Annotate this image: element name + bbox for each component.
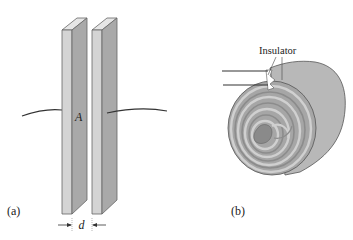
separation-label: d: [79, 218, 86, 232]
right-plate: [92, 18, 117, 214]
left-lead-wire: [22, 110, 62, 116]
panel-a-label: (a): [7, 204, 20, 218]
right-plate-side: [102, 18, 117, 214]
capacitor-figure: A d (a): [0, 0, 353, 240]
panel-a-parallel-plate-capacitor: A d (a): [7, 18, 167, 232]
left-plate-front: [62, 30, 72, 214]
insulator-label: Insulator: [259, 45, 297, 56]
right-arrowhead-icon: [92, 223, 97, 227]
panel-b-rolled-capacitor: Insulator (b): [222, 45, 345, 218]
roll-end-face: [228, 81, 316, 175]
separation-dimension: d: [58, 218, 106, 232]
left-arrowhead-icon: [67, 223, 72, 227]
area-label: A: [74, 110, 83, 124]
right-plate-front: [92, 30, 102, 214]
panel-b-label: (b): [231, 204, 245, 218]
